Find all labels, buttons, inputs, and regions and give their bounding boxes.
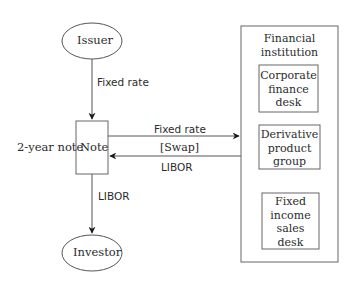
fisd-line4: desk (262, 236, 319, 250)
fi-title-line2: institution (241, 46, 338, 60)
note-side-label: 2-year note (17, 141, 83, 154)
derivative-product-group-label: Derivative product group (259, 128, 320, 169)
swap-label: [Swap] (160, 141, 199, 154)
financial-institution-title: Financial institution (241, 32, 338, 59)
cfd-line2: finance (259, 83, 318, 97)
dpg-line2: product (259, 142, 320, 156)
corporate-finance-desk-label: Corporate finance desk (259, 69, 318, 110)
cfd-line3: desk (259, 96, 318, 110)
issuer-to-note-label: Fixed rate (97, 76, 149, 89)
fisd-line3: sales (262, 222, 319, 236)
issuer-label: Issuer (77, 34, 113, 47)
investor-label: Investor (73, 246, 121, 259)
cfd-line1: Corporate (259, 69, 318, 83)
dpg-line3: group (259, 155, 320, 169)
fisd-line2: income (262, 209, 319, 223)
fi-title-line1: Financial (241, 32, 338, 46)
fi-to-note-label: LIBOR (161, 161, 193, 174)
dpg-line1: Derivative (259, 128, 320, 142)
note-to-fi-label: Fixed rate (154, 123, 206, 136)
fixed-income-sales-desk-label: Fixed income sales desk (262, 195, 319, 249)
swap-diagram: Issuer Note 2-year note Investor Financi… (0, 0, 356, 284)
fisd-line1: Fixed (262, 195, 319, 209)
note-to-investor-label: LIBOR (98, 190, 130, 203)
note-label: Note (80, 141, 108, 154)
